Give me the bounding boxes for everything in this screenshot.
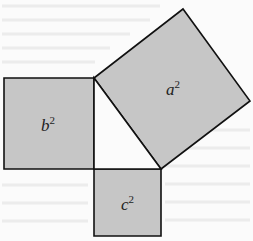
- pythagorean-figure: a2 b2 c2: [0, 0, 253, 241]
